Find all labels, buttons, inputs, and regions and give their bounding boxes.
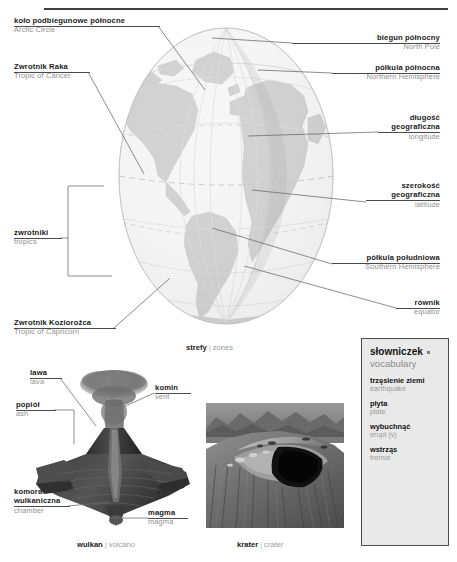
vocabulary-entry-tremor: wstrząs tremor (370, 445, 440, 463)
leader-southern-hemisphere (212, 228, 334, 268)
leader-tropic-of-capricorn (114, 278, 174, 330)
label-ash-pl: popiół (16, 400, 40, 409)
vocabulary-entry-en: earthquake (370, 385, 440, 394)
label-vent-pl: komin (155, 383, 178, 392)
label-magma-chamber: komora wulkaniczna chamber (14, 487, 60, 515)
label-longitude-rule (378, 132, 440, 133)
label-magma-chamber-pl-1: komora (14, 487, 60, 496)
crater-caption-en: crater (264, 540, 283, 549)
vocabulary-box: słowniczek vocabulary trzęsienie ziemi e… (361, 338, 449, 546)
vocabulary-entry-en: erupt (v) (370, 431, 440, 440)
leader-latitude (252, 188, 368, 206)
label-tropics-pl: zwrotniki (14, 228, 48, 237)
label-arctic-circle-rule (14, 26, 160, 27)
vocabulary-subtitle: vocabulary (370, 358, 440, 370)
vocabulary-entry-erupt: wybuchnąć erupt (v) (370, 422, 440, 440)
label-magma-rule (148, 518, 188, 519)
label-lava-pl: lawa (30, 368, 47, 377)
label-longitude-pl-1: długość (260, 113, 440, 122)
globe-caption: strefy|zones (186, 343, 233, 352)
leader-longitude (248, 126, 380, 140)
label-tropic-of-cancer-pl: Zwrotnik Raka (14, 62, 71, 71)
label-magma-chamber-pl-2: wulkaniczna (14, 496, 60, 505)
label-southern-hemisphere-rule (332, 263, 440, 264)
leader-arctic-circle (158, 24, 208, 94)
label-tropics-rule (14, 238, 62, 239)
vocabulary-entry-en: tremor (370, 454, 440, 463)
top-divider-rule (44, 8, 448, 10)
leader-northern-hemisphere (258, 66, 334, 78)
volcano-caption-pl: wulkan (77, 540, 103, 549)
leader-ash (54, 408, 76, 446)
label-tropic-of-capricorn-pl: Zwrotnik Koziorożca (14, 318, 91, 327)
label-north-pole-rule (292, 43, 440, 44)
leader-magma-chamber (68, 500, 112, 512)
crater-caption-pl: krater (237, 540, 258, 549)
label-lava-rule (30, 378, 62, 379)
vocabulary-title-text: słowniczek (370, 346, 423, 357)
label-latitude-rule (366, 200, 440, 201)
volcano-caption-en: volcano (109, 540, 135, 549)
vocabulary-entry-en: plate (370, 408, 440, 417)
leader-magma (112, 514, 150, 524)
label-northern-hemisphere-rule (332, 73, 440, 74)
volcano-caption: wulkan|volcano (77, 540, 135, 549)
crater-photo (206, 403, 344, 528)
globe-caption-pl: strefy (186, 343, 207, 352)
globe-caption-en: zones (213, 343, 233, 352)
label-magma-chamber-rule (14, 506, 70, 507)
label-vent-rule (155, 393, 191, 394)
label-magma-chamber-en: chamber (14, 506, 60, 515)
vocabulary-entry-earthquake: trzęsienie ziemi earthquake (370, 376, 440, 394)
crater-caption: krater|crater (237, 540, 284, 549)
leader-equator (244, 266, 398, 312)
vocabulary-bullet-icon (427, 351, 430, 354)
label-arctic-circle-pl: koło podbiegunowe północne (14, 16, 125, 25)
vocabulary-title: słowniczek (370, 346, 440, 358)
leader-north-pole (212, 36, 294, 50)
label-tropic-of-cancer-rule (14, 72, 90, 73)
crater-photo-svg (206, 403, 344, 528)
vocabulary-entry-plate: płyta plate (370, 399, 440, 417)
leader-vent (106, 391, 156, 417)
label-equator-rule (396, 308, 440, 309)
label-magma-pl: magma (148, 508, 175, 517)
label-ash-rule (16, 410, 56, 411)
label-tropic-of-capricorn-rule (14, 328, 116, 329)
